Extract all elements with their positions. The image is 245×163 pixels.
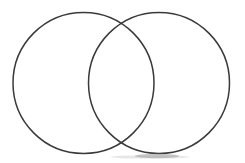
scan-smudge-artifact [135, 154, 179, 158]
venn-diagram-canvas [0, 0, 245, 163]
venn-diagram-page [0, 0, 245, 163]
